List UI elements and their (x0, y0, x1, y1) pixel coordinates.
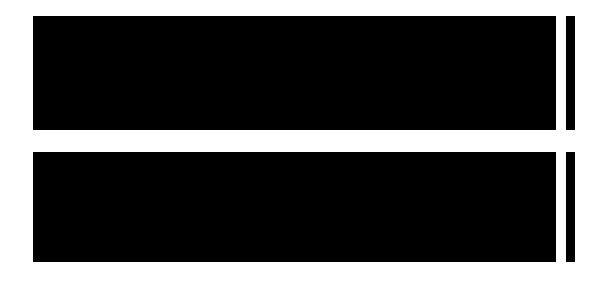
bottom-heatmap-plot[interactable] (33, 152, 556, 262)
bottom-colorbar[interactable] (566, 152, 575, 262)
panel-top (0, 0, 604, 147)
top-colorbar[interactable] (566, 16, 575, 130)
top-heatmap-plot[interactable] (33, 16, 556, 130)
figure-canvas (0, 0, 604, 293)
panel-bottom (0, 147, 604, 293)
